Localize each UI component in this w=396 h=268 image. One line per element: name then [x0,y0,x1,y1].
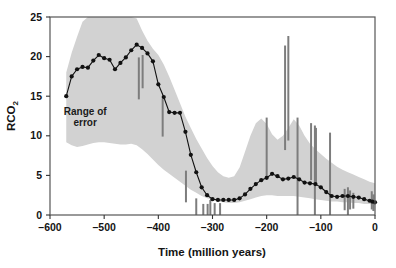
data-point [346,194,350,198]
data-point [178,111,182,115]
data-point [330,194,334,198]
data-point [275,174,279,178]
y-axis-tick-label: 25 [30,11,42,23]
data-point [308,181,312,185]
data-point [324,190,328,194]
data-point [297,177,301,181]
data-point [351,195,355,199]
x-axis-tick-label: –500 [92,221,116,233]
x-axis-ticks: –600–500–400–300–200–1000 [38,215,378,233]
svg-text:RCO2: RCO2 [5,100,20,131]
data-point [145,51,149,55]
data-point [313,182,317,186]
data-point [232,198,236,202]
data-point [200,185,204,189]
data-point [243,192,247,196]
data-point [210,197,214,201]
data-point [357,195,361,199]
data-point [102,56,106,60]
range-of-error-line1: Range of [64,106,107,117]
data-point [292,175,296,179]
y-axis-title-main: RCO [5,105,17,131]
y-axis-tick-label: 10 [30,129,42,141]
y-axis-tick-label: 20 [30,50,42,62]
data-point [270,172,274,176]
data-point [335,195,339,199]
data-point [259,178,263,182]
x-axis-title: Time (million years) [158,246,266,258]
range-of-error-line2: error [74,117,97,128]
data-point [140,46,144,50]
data-point [248,187,252,191]
data-point [194,170,198,174]
chart-svg: –600–500–400–300–200–1000 0510152025 Ran… [0,0,396,268]
data-point [129,48,133,52]
data-point [156,82,160,86]
x-axis-tick-label: –600 [38,221,62,233]
data-point [86,66,90,70]
y-axis-tick-label: 0 [36,209,42,221]
data-point [124,55,128,59]
y-axis-tick-label: 15 [30,90,42,102]
data-point [151,59,155,63]
data-point [340,194,344,198]
data-point [113,67,117,71]
data-point [254,182,258,186]
data-point [281,177,285,181]
data-point [80,65,84,69]
x-axis-tick-label: –200 [255,221,279,233]
data-point [237,196,241,200]
data-point [64,94,68,98]
data-point [70,74,74,78]
data-point [135,43,139,47]
data-point [162,95,166,99]
data-point [91,58,95,62]
x-axis-tick-label: –300 [201,221,225,233]
data-point [265,176,269,180]
x-axis-tick-label: –400 [147,221,171,233]
data-point [302,180,306,184]
data-point [319,185,323,189]
x-axis-tick-label: –100 [309,221,333,233]
data-point [221,198,225,202]
y-axis-tick-label: 5 [36,169,42,181]
y-axis-title: RCO2 [5,100,20,131]
data-point [118,61,122,65]
data-point [216,198,220,202]
data-point [189,153,193,157]
y-axis-ticks: 0510152025 [30,11,50,221]
data-point [167,110,171,114]
data-point [227,198,231,202]
data-point [362,197,366,201]
y-axis-title-subscript: 2 [11,100,20,105]
data-point [286,176,290,180]
chart-figure: –600–500–400–300–200–1000 0510152025 Ran… [0,0,396,268]
data-point [205,193,209,197]
data-point [172,111,176,115]
data-point [97,53,101,57]
data-point [183,130,187,134]
x-axis-tick-label: 0 [372,221,378,233]
data-point [75,67,79,71]
data-point [107,58,111,62]
